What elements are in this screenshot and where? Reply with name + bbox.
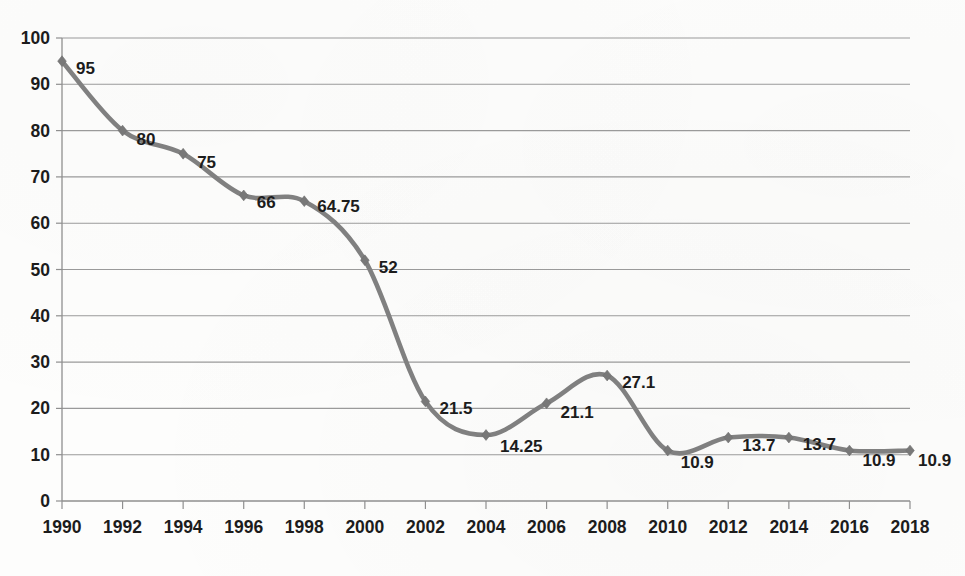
data-point-marker (482, 430, 491, 441)
y-tick-label: 90 (31, 74, 51, 94)
data-point-label: 10.9 (681, 453, 714, 472)
x-tick-label: 2014 (769, 517, 808, 537)
x-tick-label: 1996 (224, 517, 263, 537)
data-point-label: 95 (76, 59, 95, 78)
x-tick-label: 1992 (103, 517, 142, 537)
y-tick-label: 80 (31, 121, 51, 141)
data-point-label: 14.25 (500, 437, 543, 456)
data-series (62, 61, 910, 453)
y-tick-label: 0 (40, 491, 50, 511)
x-tick-label: 1994 (164, 517, 203, 537)
series-line (62, 61, 910, 453)
x-tick-label: 2016 (830, 517, 869, 537)
x-axis: 1990199219941996199820002002200420062008… (43, 501, 930, 537)
gridlines-group (62, 38, 910, 455)
data-point-marker (785, 432, 794, 443)
data-point-labels: 9580756664.755221.514.2521.127.110.913.7… (76, 59, 951, 471)
x-tick-label: 1998 (285, 517, 324, 537)
y-tick-label: 40 (31, 306, 51, 326)
data-point-marker (724, 432, 733, 443)
x-tick-label: 2004 (467, 517, 506, 537)
y-tick-label: 70 (31, 167, 51, 187)
data-point-label: 66 (257, 193, 276, 212)
data-point-label: 27.1 (622, 373, 655, 392)
x-tick-label: 2000 (345, 517, 384, 537)
chart-page: 0102030405060708090100 19901992199419961… (0, 0, 965, 576)
x-tick-label: 2006 (527, 517, 566, 537)
data-point-label: 10.9 (918, 451, 951, 470)
y-tick-label: 10 (31, 445, 51, 465)
x-tick-label: 2012 (709, 517, 748, 537)
x-tick-label: 2010 (648, 517, 687, 537)
y-tick-label: 60 (31, 213, 51, 233)
data-point-label: 21.5 (439, 399, 472, 418)
data-point-label: 52 (379, 258, 398, 277)
y-axis: 0102030405060708090100 (21, 28, 62, 511)
y-tick-label: 30 (31, 352, 51, 372)
data-point-label: 80 (137, 130, 156, 149)
x-tick-label: 2018 (891, 517, 930, 537)
y-tick-label: 20 (31, 398, 51, 418)
data-point-label: 75 (197, 153, 216, 172)
data-point-label: 13.7 (742, 436, 775, 455)
x-tick-label: 2008 (588, 517, 627, 537)
x-tick-label: 2002 (406, 517, 445, 537)
y-tick-label: 100 (21, 28, 50, 48)
data-point-label: 64.75 (317, 197, 360, 216)
data-point-label: 10.9 (862, 451, 895, 470)
data-point-markers (58, 56, 915, 456)
data-point-label: 21.1 (561, 403, 594, 422)
line-chart-plot: 0102030405060708090100 19901992199419961… (0, 0, 965, 576)
y-tick-label: 50 (31, 260, 51, 280)
data-point-label: 13.7 (803, 435, 836, 454)
x-tick-label: 1990 (43, 517, 82, 537)
